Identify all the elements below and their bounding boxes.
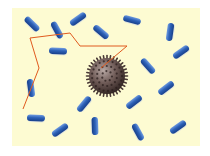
illustration-canvas [0,0,210,156]
bacterium [27,114,45,122]
illustration: Virus among rod-shaped bacteria [0,0,210,156]
bacterium [90,117,98,135]
bacterium [49,47,67,55]
